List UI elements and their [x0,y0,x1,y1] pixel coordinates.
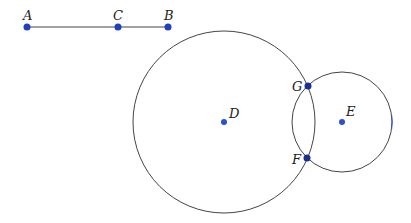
label-d: D [228,106,240,121]
point-a[interactable] [24,24,31,31]
point-f[interactable] [304,155,311,162]
point-b[interactable] [165,24,172,31]
point-c[interactable] [115,24,122,31]
label-a: A [22,8,32,23]
label-f: F [291,152,302,167]
label-c: C [113,8,123,23]
point-e[interactable] [339,119,345,125]
label-g: G [292,79,302,94]
point-g[interactable] [305,83,312,90]
point-d[interactable] [221,119,227,125]
label-b: B [163,8,174,23]
label-e: E [345,104,356,119]
geometry-diagram: A C B D E G F [0,0,411,223]
